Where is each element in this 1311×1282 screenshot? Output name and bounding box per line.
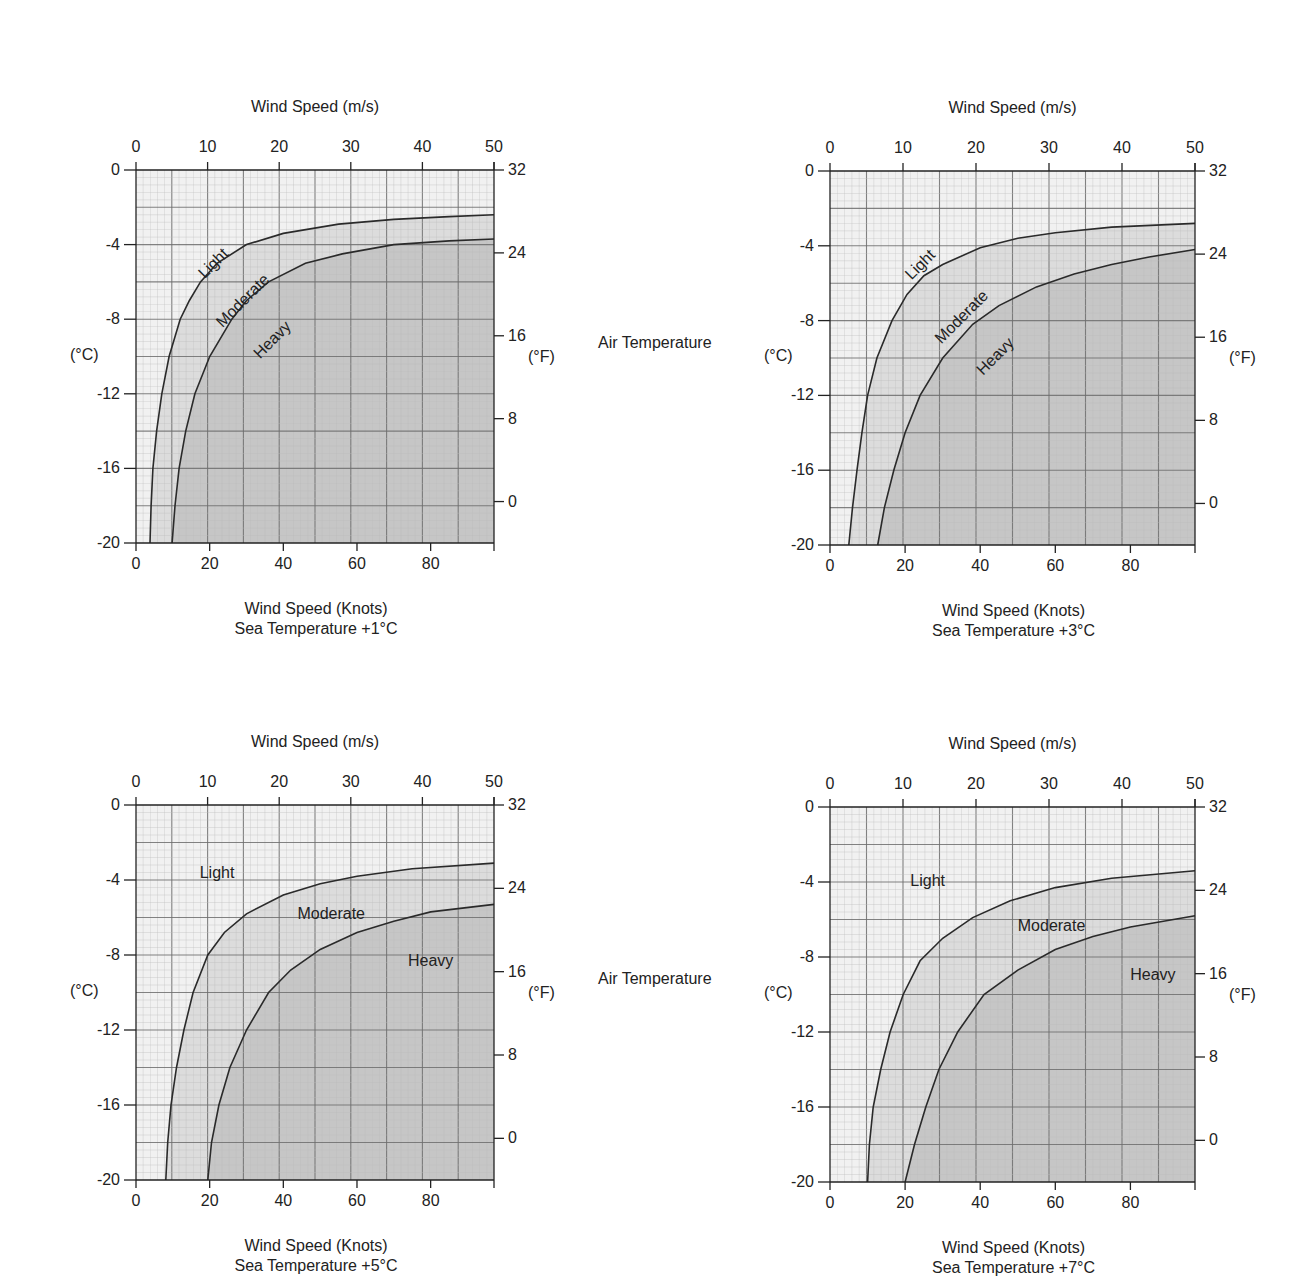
left-tick-label: -4 — [800, 873, 814, 891]
left-axis-unit: (°C) — [764, 984, 793, 1002]
zone-label-heavy: Heavy — [1130, 966, 1175, 983]
right-tick-label: 24 — [1209, 881, 1227, 899]
bottom-tick-label: 60 — [1046, 1194, 1064, 1212]
top-axis-title: Wind Speed (m/s) — [948, 735, 1076, 753]
plot-area: LightModerateHeavy — [0, 0, 1311, 1282]
top-tick-label: 30 — [1040, 775, 1058, 793]
left-tick-label: -20 — [791, 1173, 814, 1191]
zone-label-moderate: Moderate — [1018, 917, 1086, 934]
bottom-tick-label: 40 — [971, 1194, 989, 1212]
bottom-tick-label: 20 — [896, 1194, 914, 1212]
right-tick-label: 16 — [1209, 965, 1227, 983]
top-tick-label: 20 — [967, 775, 985, 793]
right-tick-label: 0 — [1209, 1131, 1218, 1149]
sea-temperature-subtitle: Sea Temperature +7°C — [932, 1258, 1095, 1278]
top-tick-label: 50 — [1186, 775, 1204, 793]
left-tick-label: -8 — [800, 948, 814, 966]
top-tick-label: 40 — [1113, 775, 1131, 793]
left-tick-label: -12 — [791, 1023, 814, 1041]
bottom-tick-label: 0 — [826, 1194, 835, 1212]
right-tick-label: 8 — [1209, 1048, 1218, 1066]
top-tick-label: 10 — [894, 775, 912, 793]
air-temperature-label-top: Air Temperature — [598, 334, 712, 352]
bottom-axis-title: Wind Speed (Knots) — [932, 1238, 1095, 1258]
right-tick-label: 32 — [1209, 798, 1227, 816]
top-tick-label: 0 — [826, 775, 835, 793]
zone-label-light: Light — [910, 872, 945, 889]
right-axis-unit: (°F) — [1229, 986, 1256, 1004]
left-tick-label: -16 — [791, 1098, 814, 1116]
air-temperature-label-bottom: Air Temperature — [598, 970, 712, 988]
chart-caption: Wind Speed (Knots)Sea Temperature +7°C — [932, 1238, 1095, 1278]
bottom-tick-label: 80 — [1122, 1194, 1140, 1212]
left-tick-label: 0 — [805, 798, 814, 816]
